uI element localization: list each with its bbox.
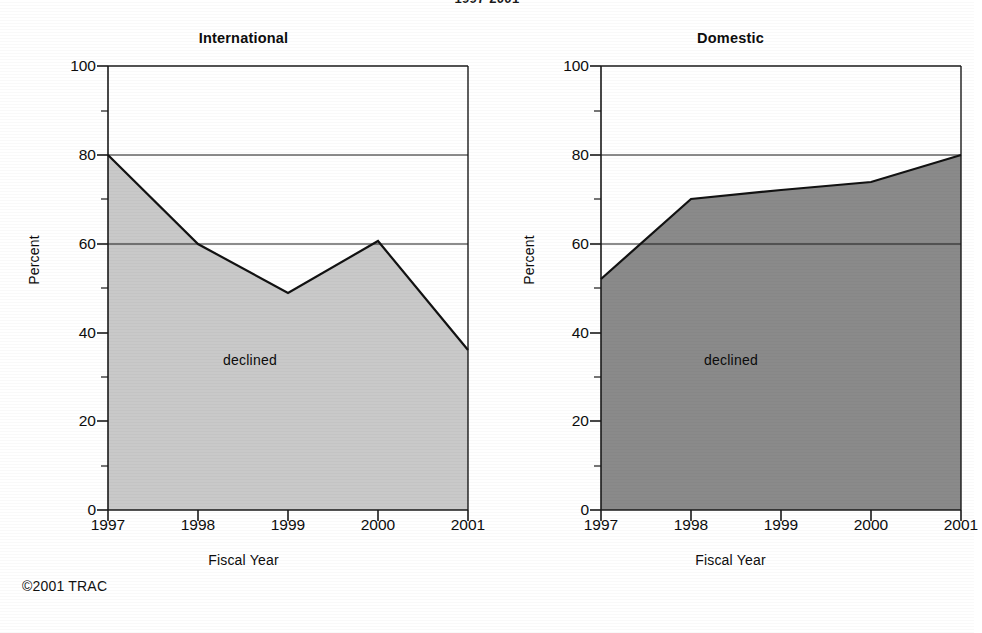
chart-panel-international: International Percent Fiscal Year 0 20 4… xyxy=(0,0,487,633)
x-major-ticks xyxy=(601,510,961,521)
plot-area-domestic xyxy=(590,66,961,521)
area-annotation-international: declined xyxy=(223,352,277,368)
chart-panel-domestic: Domestic Percent Fiscal Year 0 20 40 60 … xyxy=(487,0,974,633)
copyright-notice: ©2001 TRAC xyxy=(22,578,107,594)
plot-svg-international xyxy=(0,0,487,633)
x-major-ticks xyxy=(108,510,468,521)
y-minor-ticks xyxy=(101,111,108,466)
plot-area-international xyxy=(97,66,468,521)
area-annotation-domestic: declined xyxy=(704,352,758,368)
y-minor-ticks xyxy=(594,111,601,466)
area-series-declined-domestic xyxy=(601,155,961,510)
plot-svg-domestic xyxy=(487,0,974,633)
